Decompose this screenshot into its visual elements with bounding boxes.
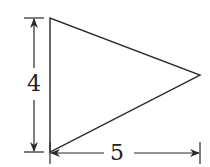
height-label: 4 bbox=[25, 73, 43, 95]
width-label: 5 bbox=[108, 142, 126, 164]
diagram-canvas: 4 5 bbox=[0, 0, 210, 167]
triangle-shape bbox=[50, 18, 200, 152]
